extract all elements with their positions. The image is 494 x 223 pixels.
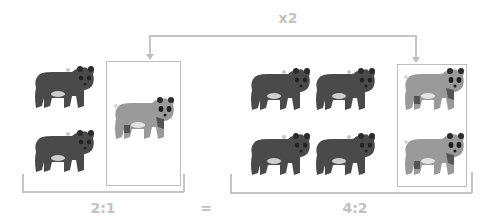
connector-right-drop bbox=[415, 35, 417, 57]
arrow-down-icon bbox=[146, 54, 154, 60]
multiplier-label: x2 bbox=[268, 10, 308, 26]
left-ratio-label: 2:1 bbox=[80, 200, 126, 216]
connector-left-drop bbox=[149, 35, 151, 55]
left-bracket-right bbox=[183, 174, 185, 192]
light-bear-icon bbox=[112, 97, 176, 143]
dark-bear-icon bbox=[313, 68, 377, 114]
left-bracket-bottom bbox=[22, 191, 184, 193]
light-bear-icon bbox=[402, 68, 466, 114]
dark-bear-icon bbox=[32, 66, 96, 112]
left-bracket-left bbox=[22, 174, 24, 192]
connector-top-line bbox=[149, 35, 416, 37]
dark-bear-icon bbox=[248, 133, 312, 179]
arrow-down-icon bbox=[412, 57, 420, 63]
equals-sign: = bbox=[196, 200, 216, 216]
light-bear-icon bbox=[402, 133, 466, 179]
dark-bear-icon bbox=[313, 133, 377, 179]
right-bracket-left bbox=[230, 174, 232, 193]
right-ratio-label: 4:2 bbox=[330, 200, 380, 216]
dark-bear-icon bbox=[32, 130, 96, 176]
right-bracket-bottom bbox=[230, 192, 472, 194]
right-bracket-right bbox=[471, 172, 473, 193]
dark-bear-icon bbox=[248, 68, 312, 114]
